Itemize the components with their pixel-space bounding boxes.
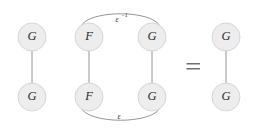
diagram-canvas: G G F G [0, 0, 257, 134]
arc-label-epsilon: ε [117, 112, 121, 121]
node-left-bottom: G [18, 83, 46, 111]
node-mid-top-left: F [75, 23, 103, 51]
arc-label-epsilon-inverse-base: ε [115, 15, 119, 24]
node-label: F [84, 89, 93, 103]
node-right-top: G [212, 23, 240, 51]
node-label: G [221, 29, 230, 43]
string-diagram-svg: G G F G [0, 0, 257, 134]
conjugation-diagram: F G F G ε −1 ε [75, 12, 166, 121]
node-mid-bottom-right: G [138, 83, 166, 111]
node-mid-top-right: G [138, 23, 166, 51]
equals-bar-top [187, 63, 201, 65]
node-label: G [27, 89, 36, 103]
equals-sign [187, 63, 201, 70]
arc-label-bottom: ε [117, 112, 121, 121]
node-label: G [147, 89, 156, 103]
equals-bar-bottom [187, 68, 201, 70]
right-identity-diagram: G G [212, 23, 240, 111]
left-identity-diagram: G G [18, 23, 46, 111]
node-label: G [221, 89, 230, 103]
node-label: G [27, 29, 36, 43]
node-mid-bottom-left: F [75, 83, 103, 111]
node-left-top: G [18, 23, 46, 51]
node-right-bottom: G [212, 83, 240, 111]
node-label: G [147, 29, 156, 43]
node-label: F [84, 29, 93, 43]
arc-label-epsilon-inverse-exponent: −1 [122, 12, 128, 18]
